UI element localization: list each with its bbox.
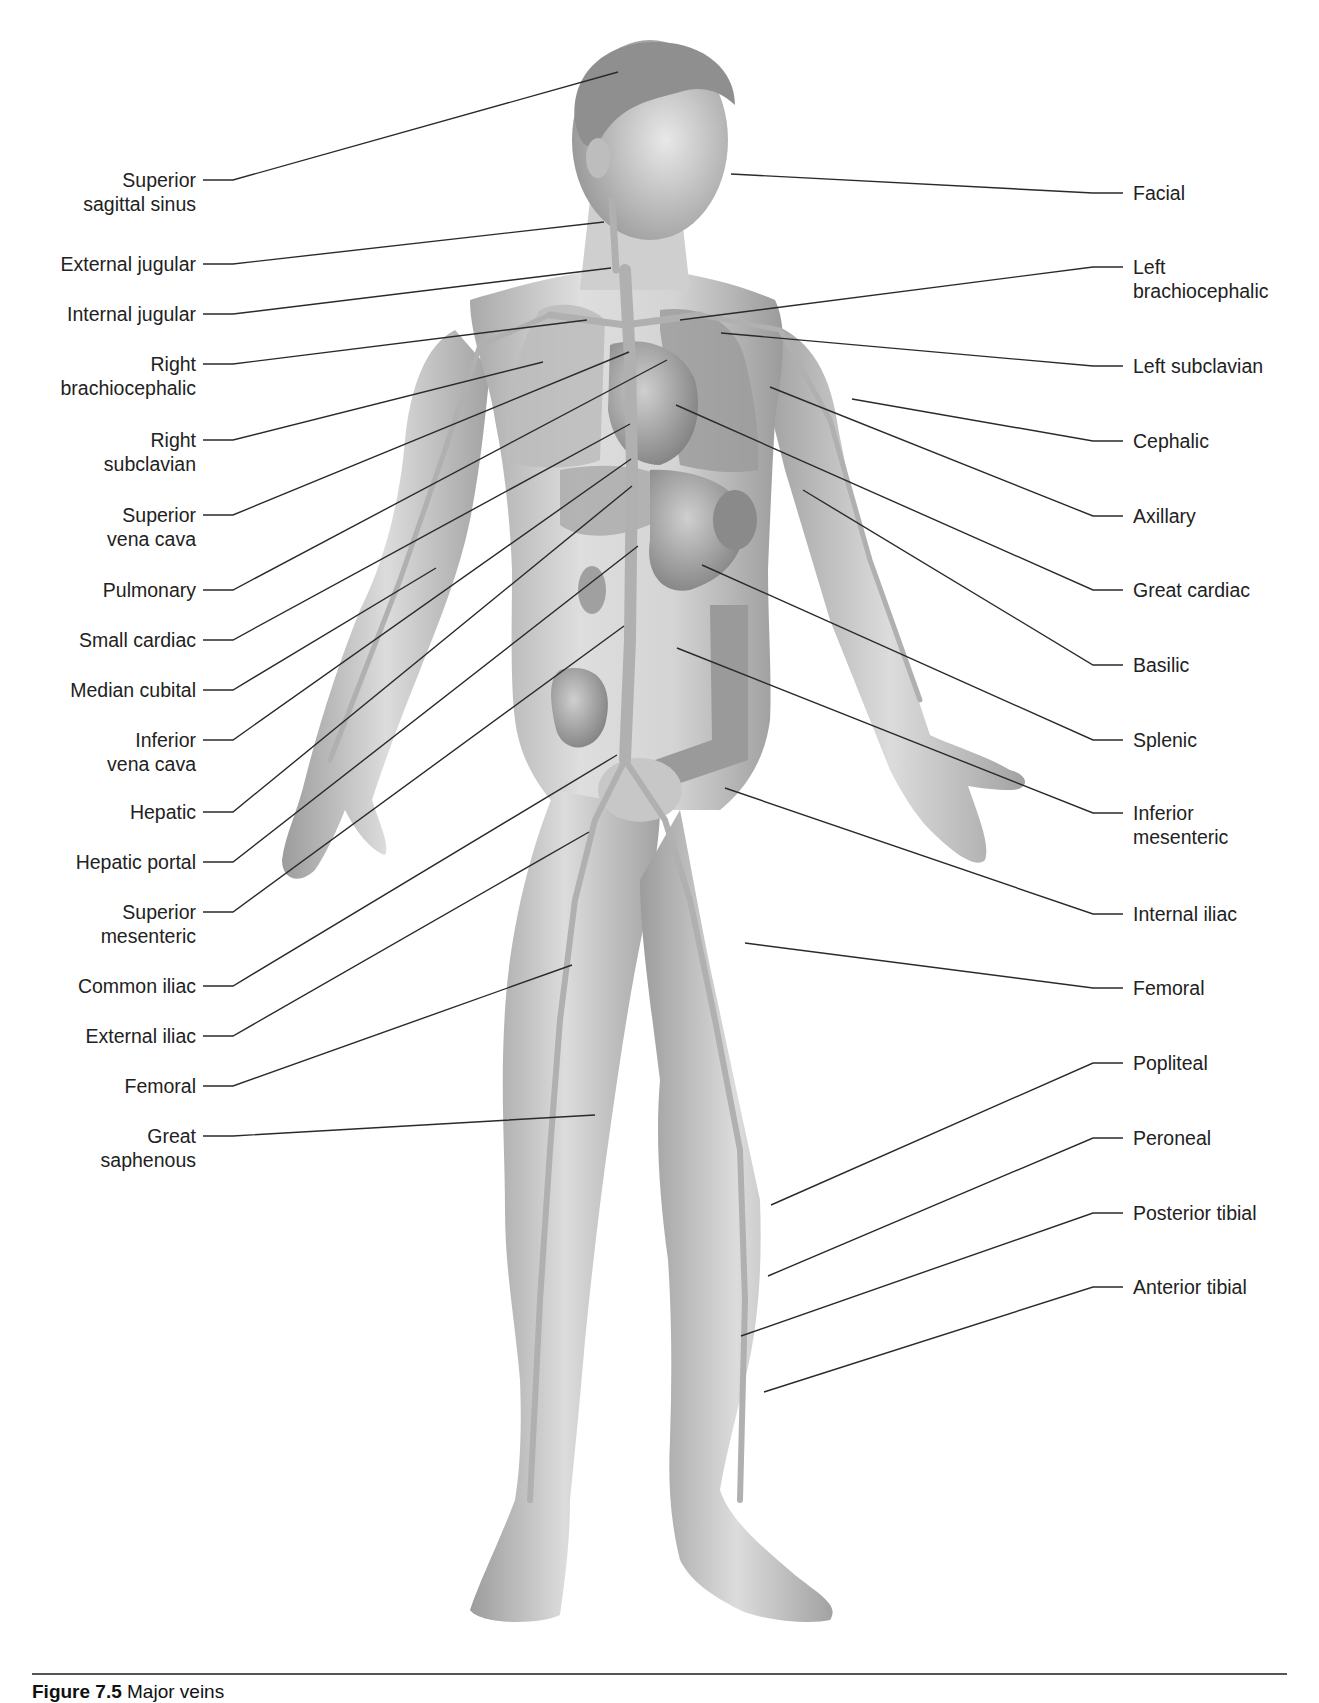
label-popliteal: Popliteal: [1133, 1051, 1208, 1075]
leader-line-common-iliac: [203, 755, 617, 986]
label-median-cubital: Median cubital: [70, 678, 196, 702]
label-femoral-right: Femoral: [1133, 976, 1205, 1000]
label-internal-jugular: Internal jugular: [67, 302, 196, 326]
leader-line-inferior-mesenteric: [677, 648, 1123, 813]
label-internal-iliac: Internal iliac: [1133, 902, 1237, 926]
label-posterior-tibial: Posterior tibial: [1133, 1201, 1257, 1225]
label-anterior-tibial: Anterior tibial: [1133, 1275, 1247, 1299]
label-great-cardiac: Great cardiac: [1133, 578, 1250, 602]
label-right-subclavian: Right subclavian: [104, 428, 196, 476]
label-superior-sagittal-sinus: Superior sagittal sinus: [83, 168, 196, 216]
leader-line-facial: [731, 174, 1123, 193]
label-femoral-left: Femoral: [124, 1074, 196, 1098]
leader-line-great-saphenous: [203, 1115, 595, 1136]
leader-line-external-iliac: [203, 832, 589, 1036]
label-inferior-vena-cava: Inferior vena cava: [107, 728, 196, 776]
label-superior-vena-cava: Superior vena cava: [107, 503, 196, 551]
label-left-brachiocephalic: Left brachiocephalic: [1133, 255, 1269, 303]
leader-line-posterior-tibial: [741, 1213, 1123, 1336]
leader-line-superior-sagittal-sinus: [203, 72, 618, 180]
label-peroneal: Peroneal: [1133, 1126, 1211, 1150]
label-left-subclavian: Left subclavian: [1133, 354, 1263, 378]
leader-line-great-cardiac: [676, 405, 1123, 590]
label-common-iliac: Common iliac: [78, 974, 196, 998]
leader-line-left-brachiocephalic: [680, 267, 1123, 320]
leader-line-superior-mesenteric: [203, 626, 624, 912]
label-external-jugular: External jugular: [61, 252, 197, 276]
leader-line-internal-jugular: [203, 268, 611, 314]
label-facial: Facial: [1133, 181, 1185, 205]
leader-line-anterior-tibial: [764, 1287, 1123, 1392]
leader-line-axillary: [770, 387, 1123, 516]
leader-line-basilic: [803, 490, 1123, 665]
leader-line-left-subclavian: [721, 333, 1123, 366]
label-pulmonary: Pulmonary: [103, 578, 196, 602]
label-basilic: Basilic: [1133, 653, 1189, 677]
label-external-iliac: External iliac: [85, 1024, 196, 1048]
figure-caption: Figure 7.5 Major veins: [32, 1681, 224, 1703]
label-superior-mesenteric: Superior mesenteric: [101, 900, 196, 948]
label-great-saphenous: Great saphenous: [101, 1124, 196, 1172]
leader-line-median-cubital: [203, 568, 436, 690]
leader-line-external-jugular: [203, 222, 604, 264]
label-hepatic-portal: Hepatic portal: [76, 850, 196, 874]
leader-line-hepatic: [203, 486, 632, 812]
leader-line-splenic: [702, 565, 1123, 740]
leader-line-cephalic: [852, 399, 1123, 441]
label-cephalic: Cephalic: [1133, 429, 1209, 453]
label-small-cardiac: Small cardiac: [79, 628, 196, 652]
label-inferior-mesenteric: Inferior mesenteric: [1133, 801, 1228, 849]
leader-line-femoral-left: [203, 965, 572, 1086]
label-axillary: Axillary: [1133, 504, 1196, 528]
leader-line-right-brachiocephalic: [203, 320, 587, 364]
caption-figure-number: Figure 7.5: [32, 1681, 122, 1702]
caption-divider: [32, 1673, 1287, 1675]
leader-line-superior-vena-cava: [203, 352, 629, 515]
label-splenic: Splenic: [1133, 728, 1197, 752]
leader-line-popliteal: [771, 1063, 1123, 1205]
leader-line-pulmonary: [203, 360, 667, 590]
leader-line-femoral-right: [745, 943, 1123, 988]
leader-line-hepatic-portal: [203, 546, 638, 862]
leader-line-small-cardiac: [203, 424, 630, 640]
leader-line-peroneal: [768, 1138, 1123, 1276]
label-hepatic: Hepatic: [130, 800, 196, 824]
caption-text: Major veins: [127, 1681, 224, 1702]
leader-line-internal-iliac: [725, 788, 1123, 914]
leader-line-right-subclavian: [203, 362, 543, 440]
label-right-brachiocephalic: Right brachiocephalic: [60, 352, 196, 400]
